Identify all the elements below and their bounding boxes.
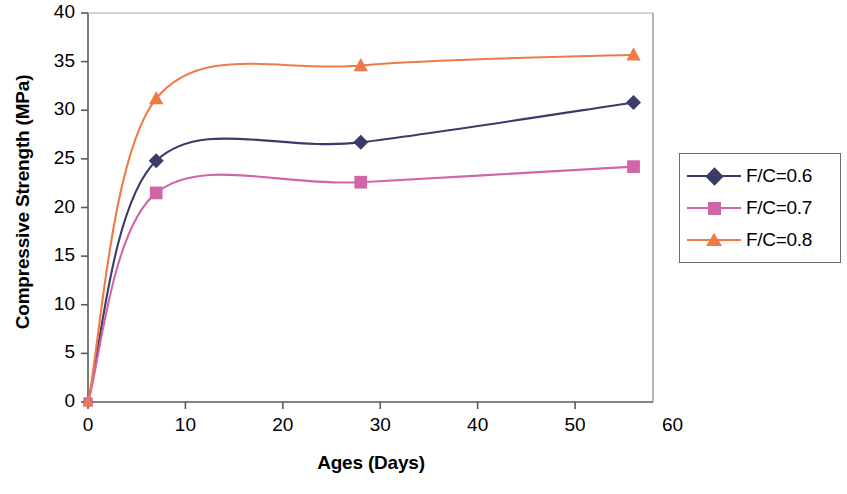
x-tick-label: 30 xyxy=(355,414,405,436)
y-tick-label: 40 xyxy=(35,1,75,23)
series-3 xyxy=(83,47,641,406)
data-marker-square xyxy=(627,160,640,173)
x-axis-title: Ages (Days) xyxy=(317,452,425,473)
legend-label-1: F/C=0.7 xyxy=(741,197,812,219)
y-tick-label: 20 xyxy=(35,196,75,218)
x-tick-label: 40 xyxy=(453,414,503,436)
data-marker-square xyxy=(150,187,163,200)
x-tick-label: 20 xyxy=(258,414,308,436)
y-tick-label: 10 xyxy=(35,293,75,315)
chart-legend: F/C=0.6 F/C=0.7 F/C=0.8 xyxy=(679,153,841,263)
data-marker-triangle xyxy=(626,47,640,60)
x-tick-label: 60 xyxy=(647,414,697,436)
legend-label-2: F/C=0.8 xyxy=(741,229,812,251)
series-line-2 xyxy=(88,167,634,402)
y-tick-label: 5 xyxy=(35,341,75,363)
data-series-group xyxy=(83,47,642,407)
plot-frame xyxy=(88,13,653,402)
legend-key-diamond-icon xyxy=(687,165,741,187)
data-marker-diamond xyxy=(626,95,641,110)
x-axis-title-container: Ages (Days) xyxy=(88,452,654,474)
legend-item-0[interactable]: F/C=0.6 xyxy=(680,160,840,192)
x-tick-label: 10 xyxy=(160,414,210,436)
y-tick-label: 25 xyxy=(35,147,75,169)
y-tick-label: 30 xyxy=(35,98,75,120)
y-tick-label: 0 xyxy=(35,390,75,412)
series-1 xyxy=(83,95,642,408)
data-marker-square xyxy=(354,176,367,189)
legend-key-triangle-icon xyxy=(687,229,741,251)
series-line-3 xyxy=(88,55,634,402)
axis-ticks xyxy=(81,13,575,409)
legend-key-square-icon xyxy=(687,197,741,219)
y-tick-label: 35 xyxy=(35,50,75,72)
legend-item-2[interactable]: F/C=0.8 xyxy=(680,224,840,256)
data-marker-diamond xyxy=(353,135,368,150)
y-tick-label: 15 xyxy=(35,244,75,266)
legend-label-0: F/C=0.6 xyxy=(741,165,812,187)
legend-item-1[interactable]: F/C=0.7 xyxy=(680,192,840,224)
series-2 xyxy=(83,160,640,406)
x-tick-label: 0 xyxy=(63,414,113,436)
chart-figure: Compressive Strength (MPa) 0510152025303… xyxy=(0,0,847,494)
x-tick-label: 50 xyxy=(550,414,600,436)
